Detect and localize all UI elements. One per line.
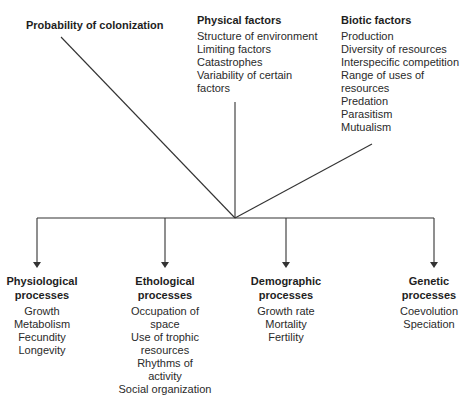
colonization-title: Probability of colonization bbox=[26, 19, 164, 32]
ethological-processes-block: Ethological processes Occupation of spac… bbox=[110, 274, 220, 396]
physical-factor-item: Limiting factors bbox=[197, 43, 317, 56]
title-line: Ethological bbox=[110, 274, 220, 288]
process-item: Growth rate bbox=[236, 305, 336, 318]
process-item: Fertility bbox=[236, 331, 336, 344]
process-item: Speciation bbox=[384, 318, 470, 331]
biotic-factor-item: Mutualism bbox=[341, 121, 459, 134]
title-line: processes bbox=[0, 288, 92, 302]
physical-factors-block: Physical factors Structure of environmen… bbox=[197, 14, 317, 95]
biotic-factors-block: Biotic factors Production Diversity of r… bbox=[341, 14, 459, 134]
demographic-processes-block: Demographic processes Growth rate Mortal… bbox=[236, 274, 336, 344]
process-item: Growth bbox=[0, 305, 92, 318]
process-item: space bbox=[110, 318, 220, 331]
physical-factor-item: factors bbox=[197, 82, 317, 95]
biotic-factor-item: resources bbox=[341, 82, 459, 95]
arrowhead-genetic-icon bbox=[430, 262, 438, 268]
biotic-factor-item: Production bbox=[341, 30, 459, 43]
biotic-factors-title: Biotic factors bbox=[341, 14, 459, 27]
process-item: Fecundity bbox=[0, 331, 92, 344]
ethological-processes-title: Ethological processes bbox=[110, 274, 220, 302]
biotic-factor-item: Diversity of resources bbox=[341, 43, 459, 56]
arrowhead-demographic-icon bbox=[282, 262, 290, 268]
biotic-factor-item: Predation bbox=[341, 95, 459, 108]
physical-factor-item: Structure of environment bbox=[197, 30, 317, 43]
colonization-block: Probability of colonization bbox=[26, 19, 164, 35]
process-item: Social organization bbox=[110, 383, 220, 396]
process-item: Occupation of bbox=[110, 305, 220, 318]
title-line: Demographic bbox=[236, 274, 336, 288]
physical-factor-item: Catastrophes bbox=[197, 56, 317, 69]
process-item: Metabolism bbox=[0, 318, 92, 331]
physiological-processes-title: Physiological processes bbox=[0, 274, 92, 302]
process-item: Longevity bbox=[0, 344, 92, 357]
process-item: Use of trophic bbox=[110, 331, 220, 344]
genetic-processes-block: Genetic processes Coevolution Speciation bbox=[384, 274, 470, 331]
title-line: processes bbox=[384, 288, 470, 302]
process-item: Mortality bbox=[236, 318, 336, 331]
process-item: resources bbox=[110, 344, 220, 357]
process-item: Rhythms of bbox=[110, 357, 220, 370]
biotic-factor-item: Interspecific competition bbox=[341, 56, 459, 69]
title-line: processes bbox=[110, 288, 220, 302]
biotic-factor-item: Parasitism bbox=[341, 108, 459, 121]
physiological-processes-block: Physiological processes Growth Metabolis… bbox=[0, 274, 92, 357]
process-item: Coevolution bbox=[384, 305, 470, 318]
arrowhead-ethological-icon bbox=[161, 262, 169, 268]
biotic-connector bbox=[235, 144, 372, 218]
physical-factors-title: Physical factors bbox=[197, 14, 317, 27]
genetic-processes-title: Genetic processes bbox=[384, 274, 470, 302]
arrowhead-physiological-icon bbox=[33, 262, 41, 268]
physical-factor-item: Variability of certain bbox=[197, 69, 317, 82]
process-item: activity bbox=[110, 370, 220, 383]
title-line: processes bbox=[236, 288, 336, 302]
title-line: Genetic bbox=[384, 274, 470, 288]
demographic-processes-title: Demographic processes bbox=[236, 274, 336, 302]
title-line: Physiological bbox=[0, 274, 92, 288]
biotic-factor-item: Range of uses of bbox=[341, 69, 459, 82]
